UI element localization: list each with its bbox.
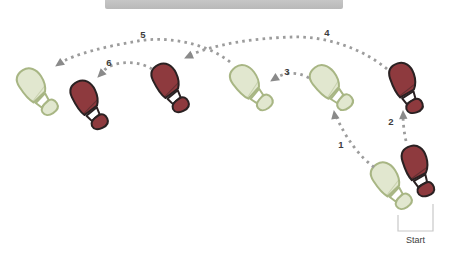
arrowhead-icon [330,109,340,119]
step-arrows-layer: 123456 [53,27,408,167]
footprint-icon-left-foot-final-position [13,64,62,121]
step-arrow-1: 1 [330,109,374,167]
step-number-3: 3 [284,66,289,77]
step-number-4: 4 [324,27,330,38]
footprint-icon-right-foot-position-4 [148,59,193,117]
footprints-layer [13,59,437,214]
footprint-icon-right-foot-final-position [67,76,112,134]
step-arrow-6: 6 [94,57,152,81]
footprint-icon-left-foot-position-1 [306,60,357,116]
arrowhead-icon [53,58,65,70]
arrowhead-icon [268,73,280,85]
dotted-path [59,39,230,64]
diagram-canvas: 123456 Start [0,0,452,259]
start-label: Start [406,235,426,245]
dance-steps-diagram: 123456 Start [0,0,452,259]
step-number-5: 5 [140,29,146,40]
step-arrow-2: 2 [388,110,407,141]
footprint-icon-right-foot-start [399,143,437,200]
start-marker: Start [398,204,433,245]
step-arrow-3: 3 [268,66,309,85]
footprint-icon-right-foot-position-2 [386,60,426,117]
step-arrow-4: 4 [182,27,387,69]
arrowhead-icon [182,51,194,62]
step-number-1: 1 [338,139,344,150]
footprint-icon-left-foot-position-3 [226,60,277,116]
arrowhead-icon [399,110,408,119]
step-number-6: 6 [106,57,111,68]
step-number-2: 2 [388,116,393,127]
